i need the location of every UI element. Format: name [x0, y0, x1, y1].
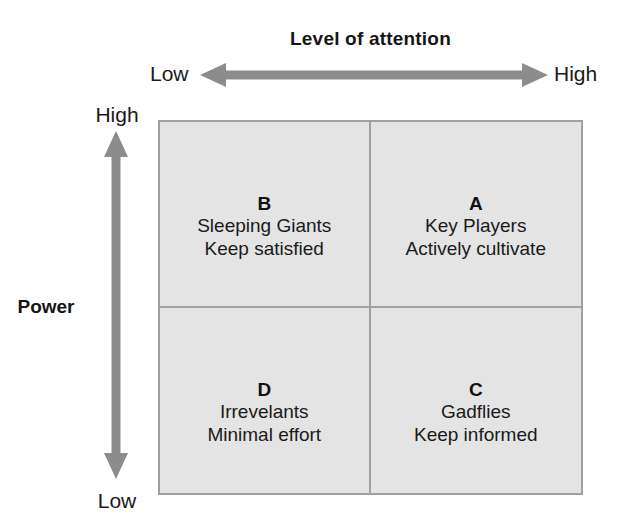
quadrant-a-name: Key Players	[425, 215, 526, 238]
quadrant-b-name: Sleeping Giants	[197, 215, 331, 238]
y-axis-high-label: High	[78, 103, 156, 127]
quadrant-grid: B Sleeping Giants Keep satisfied A Key P…	[158, 120, 583, 495]
quadrant-d-name: Irrevelants	[220, 401, 309, 424]
quadrant-d: D Irrevelants Minimal effort	[160, 308, 371, 494]
x-axis-high-label: High	[554, 62, 597, 86]
y-axis-low-label: Low	[78, 489, 156, 513]
x-axis-title: Level of attention	[158, 28, 583, 50]
vertical-double-arrow-icon	[101, 131, 131, 479]
quadrant-c-letter: C	[469, 379, 483, 401]
y-axis-title: Power	[0, 296, 92, 318]
quadrant-d-action: Minimal effort	[207, 424, 321, 447]
quadrant-c-action: Keep informed	[414, 424, 538, 447]
quadrant-b: B Sleeping Giants Keep satisfied	[160, 122, 371, 308]
quadrant-a: A Key Players Actively cultivate	[371, 122, 582, 308]
quadrant-c-name: Gadflies	[441, 401, 511, 424]
quadrant-c: C Gadflies Keep informed	[371, 308, 582, 494]
quadrant-a-action: Actively cultivate	[406, 238, 546, 261]
horizontal-double-arrow-icon	[200, 60, 548, 90]
quadrant-b-letter: B	[257, 193, 271, 215]
stakeholder-matrix-figure: Level of attention Low High High Low Pow…	[0, 0, 623, 532]
x-axis-low-label: Low	[150, 62, 189, 86]
quadrant-a-letter: A	[469, 193, 483, 215]
quadrant-d-letter: D	[257, 379, 271, 401]
quadrant-b-action: Keep satisfied	[205, 238, 324, 261]
